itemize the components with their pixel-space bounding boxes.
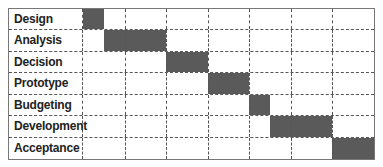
task-bar xyxy=(104,30,166,50)
grid-line xyxy=(125,30,126,50)
grid-line xyxy=(249,30,250,50)
task-row: Acceptance xyxy=(9,138,374,159)
task-bar xyxy=(208,73,250,93)
task-bar xyxy=(270,116,332,136)
grid-line xyxy=(166,52,167,72)
grid-line xyxy=(291,116,292,136)
grid-line xyxy=(166,30,167,50)
task-label: Decision xyxy=(9,52,83,72)
grid-line xyxy=(166,9,167,29)
task-label: Budgeting xyxy=(9,95,83,115)
task-row: Development xyxy=(9,116,374,137)
grid-line xyxy=(249,116,250,136)
grid-line xyxy=(208,116,209,136)
gantt-chart: DesignAnalysisDecisionPrototypeBudgeting… xyxy=(8,8,375,160)
grid-line xyxy=(332,73,333,93)
grid-line xyxy=(208,73,209,93)
grid-line xyxy=(208,30,209,50)
task-bar xyxy=(332,138,374,159)
grid-line xyxy=(249,138,250,159)
grid-line xyxy=(125,9,126,29)
grid-line xyxy=(332,138,333,159)
task-row: Analysis xyxy=(9,30,374,51)
grid-line xyxy=(125,95,126,115)
grid-line xyxy=(249,52,250,72)
task-label: Analysis xyxy=(9,30,83,50)
grid-line xyxy=(249,9,250,29)
grid-line xyxy=(125,52,126,72)
task-label: Acceptance xyxy=(9,138,83,159)
grid-line xyxy=(332,52,333,72)
grid-line xyxy=(125,138,126,159)
grid-line xyxy=(291,9,292,29)
task-bar xyxy=(166,52,208,72)
task-label: Development xyxy=(9,116,83,136)
grid-line xyxy=(208,52,209,72)
grid-line xyxy=(249,73,250,93)
grid-line xyxy=(166,116,167,136)
grid-line xyxy=(332,9,333,29)
grid-line xyxy=(291,95,292,115)
task-label: Design xyxy=(9,9,83,29)
grid-line xyxy=(332,95,333,115)
grid-line xyxy=(166,95,167,115)
grid-line xyxy=(291,73,292,93)
task-row: Design xyxy=(9,9,374,30)
grid-line xyxy=(166,138,167,159)
grid-line xyxy=(291,52,292,72)
grid-line xyxy=(291,138,292,159)
task-row: Prototype xyxy=(9,73,374,94)
grid-line xyxy=(166,73,167,93)
grid-line xyxy=(208,138,209,159)
task-bar xyxy=(249,95,270,115)
grid-line xyxy=(332,30,333,50)
grid-line xyxy=(332,116,333,136)
task-label: Prototype xyxy=(9,73,83,93)
grid-line xyxy=(125,116,126,136)
grid-line xyxy=(291,30,292,50)
grid-line xyxy=(249,95,250,115)
grid-line xyxy=(208,9,209,29)
grid-line xyxy=(125,73,126,93)
task-bar xyxy=(83,9,104,29)
task-row: Budgeting xyxy=(9,95,374,116)
task-row: Decision xyxy=(9,52,374,73)
grid-line xyxy=(208,95,209,115)
